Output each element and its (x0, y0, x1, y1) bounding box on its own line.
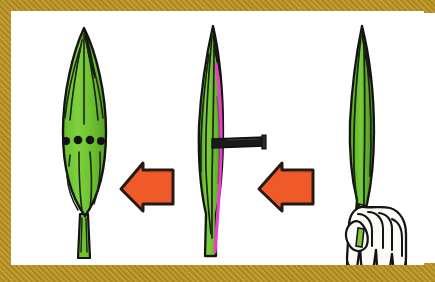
panel-folded-leaf-with-pin (178, 18, 283, 258)
frame-right-top (424, 0, 435, 13)
frame-top (0, 0, 435, 11)
arrow-middle-to-left-region (112, 163, 184, 215)
panel-hand-holding-folded-leaf (325, 18, 430, 268)
arrow-right-to-middle-region (248, 163, 323, 215)
panel-unfolded-leaf-with-holes (30, 18, 140, 258)
leaf-pin-diagram: Folded leaf pierced with a pin, then unf… (0, 0, 435, 282)
frame-left (0, 0, 11, 282)
